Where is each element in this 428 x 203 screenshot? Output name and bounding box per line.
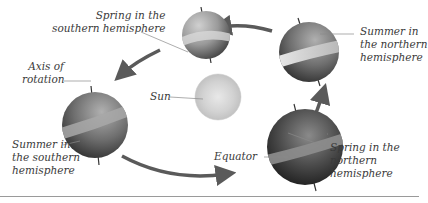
bottom-rule <box>0 196 419 197</box>
arrow-left-to-bottom <box>122 156 226 176</box>
label-summer-south: Summer in the southern hemisphere <box>12 138 80 177</box>
label-sun: Sun <box>150 90 171 103</box>
sun <box>195 74 241 120</box>
label-spring-north: Spring in the northern hemisphere <box>330 141 400 180</box>
label-spring-south: Spring in the southern hemisphere <box>52 9 165 35</box>
label-summer-north: Summer in the northern hemisphere <box>360 25 428 64</box>
globe-summer-north <box>278 18 340 86</box>
label-equator: Equator <box>214 150 257 163</box>
leader-spring-south <box>141 32 188 52</box>
arrow-top-to-left <box>122 50 160 74</box>
globe-spring-south <box>180 7 232 63</box>
label-axis-of-rotation: Axis of rotation <box>22 60 64 86</box>
